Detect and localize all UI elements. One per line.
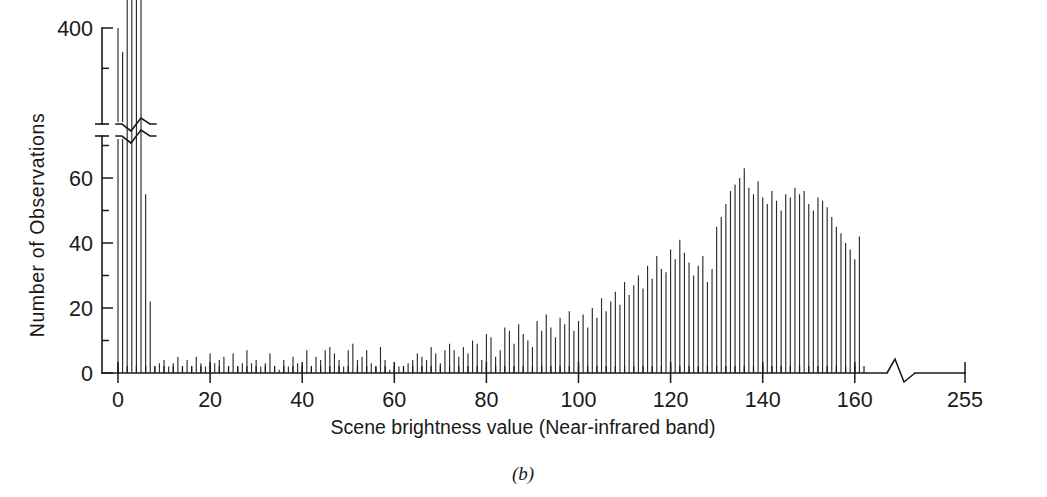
x-axis-tick-labels: 020406080100120140160255 — [112, 388, 983, 412]
x-axis-tick-label: 0 — [112, 388, 124, 412]
x-axis-tick-label: 20 — [198, 388, 222, 412]
x-axis-tick-label: 140 — [745, 388, 781, 412]
x-axis-tick-label: 120 — [653, 388, 689, 412]
histogram-chart: 020406080100120140160255 0204060400 Scen… — [0, 0, 1047, 497]
y-axis-ticks — [102, 28, 113, 373]
figure-caption: (b) — [512, 463, 534, 485]
figure-container: 020406080100120140160255 0204060400 Scen… — [0, 0, 1047, 497]
y-axis-tick-label: 40 — [69, 232, 93, 256]
x-axis-tick-label: 80 — [474, 388, 498, 412]
x-axis-tick-label: 100 — [561, 388, 597, 412]
y-axis-title: Number of Observations — [26, 113, 48, 338]
y-axis-tick-labels: 0204060400 — [57, 17, 93, 386]
x-axis-title: Scene brightness value (Near-infrared ba… — [331, 416, 716, 438]
y-axis-tick-label: 400 — [57, 17, 93, 41]
histogram-bars — [118, 0, 859, 373]
y-axis: 0204060400 — [57, 17, 113, 386]
x-axis-tick-label: 60 — [382, 388, 406, 412]
x-axis-tick-label: 40 — [290, 388, 314, 412]
x-axis: 020406080100120140160255 — [102, 359, 983, 412]
y-axis-tick-label: 20 — [69, 297, 93, 321]
y-axis-tick-label: 60 — [69, 167, 93, 191]
x-axis-break-mark — [887, 359, 915, 382]
x-axis-tick-label: 160 — [837, 388, 873, 412]
y-axis-tick-label: 0 — [81, 362, 93, 386]
x-axis-tick-label: 255 — [947, 388, 983, 412]
